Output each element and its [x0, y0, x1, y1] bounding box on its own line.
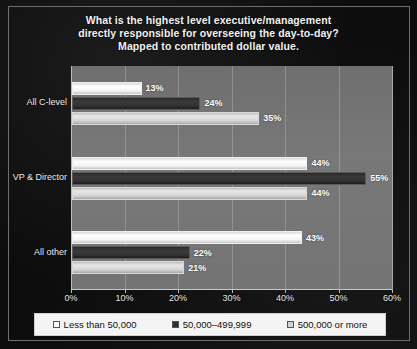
bar-value-label-2-0: 43%: [306, 233, 324, 243]
bar-value-label-0-1: 24%: [204, 98, 222, 108]
bar-row: 22%: [72, 246, 393, 259]
bar-2-0: [72, 231, 302, 244]
bar-row: 24%: [72, 97, 393, 110]
legend-swatch-icon-series-2: [172, 321, 179, 328]
chart-container: What is the highest level executive/mana…: [0, 0, 417, 349]
chart-title: What is the highest level executive/mana…: [10, 14, 407, 53]
x-tick-label-40: 40%: [265, 293, 305, 303]
y-axis-label-vp-and-director: VP & Director: [1, 172, 67, 182]
legend-label-series-1: Less than 50,000: [64, 319, 137, 330]
bar-0-1: [72, 97, 200, 110]
chart-title-line-1: What is the highest level executive/mana…: [10, 14, 407, 27]
x-tick-label-20: 20%: [158, 293, 198, 303]
bar-value-label-1-1: 55%: [370, 173, 388, 183]
bar-row: 44%: [72, 187, 393, 200]
bar-row: 55%: [72, 172, 393, 185]
y-axis-label-all-other: All other: [1, 247, 67, 257]
x-tick-label-50: 50%: [319, 293, 359, 303]
bar-value-label-2-2: 21%: [188, 263, 206, 273]
legend-item-500000-or-more: 500,000 or more: [287, 319, 368, 330]
bar-value-label-2-1: 22%: [194, 248, 212, 258]
bar-0-2: [72, 112, 259, 125]
legend-swatch-icon-series-1: [53, 321, 60, 328]
bar-row: 43%: [72, 231, 393, 244]
legend-label-series-3: 500,000 or more: [298, 319, 368, 330]
bar-1-1: [72, 172, 366, 185]
bar-value-label-0-0: 13%: [146, 83, 164, 93]
bar-row: 21%: [72, 261, 393, 274]
chart-title-line-3: Mapped to contributed dollar value.: [10, 40, 407, 53]
bar-1-0: [72, 157, 307, 170]
bar-1-2: [72, 187, 307, 200]
bar-2-1: [72, 246, 190, 259]
x-tick-label-0: 0%: [51, 293, 91, 303]
plot-area: 13%24%35%44%55%44%43%22%21%: [71, 66, 393, 290]
x-tick-label-60: 60%: [372, 293, 412, 303]
legend-item-less-than-50000: Less than 50,000: [53, 319, 137, 330]
bar-0-0: [72, 82, 142, 95]
legend-swatch-icon-series-3: [287, 321, 294, 328]
bar-2-2: [72, 261, 184, 274]
bar-value-label-1-0: 44%: [311, 158, 329, 168]
bar-row: 35%: [72, 112, 393, 125]
bar-row: 13%: [72, 82, 393, 95]
chart-title-line-2: directly responsible for overseeing the …: [10, 27, 407, 40]
x-tick-label-10: 10%: [105, 293, 145, 303]
x-tick-label-30: 30%: [212, 293, 252, 303]
bar-value-label-1-2: 44%: [311, 188, 329, 198]
y-axis-label-all-c-level: All C-level: [1, 97, 67, 107]
chart-legend: Less than 50,000 50,000–499,999 500,000 …: [34, 313, 386, 336]
legend-label-series-2: 50,000–499,999: [183, 319, 252, 330]
bar-value-label-0-2: 35%: [263, 113, 281, 123]
bar-row: 44%: [72, 157, 393, 170]
legend-item-50000-499999: 50,000–499,999: [172, 319, 252, 330]
